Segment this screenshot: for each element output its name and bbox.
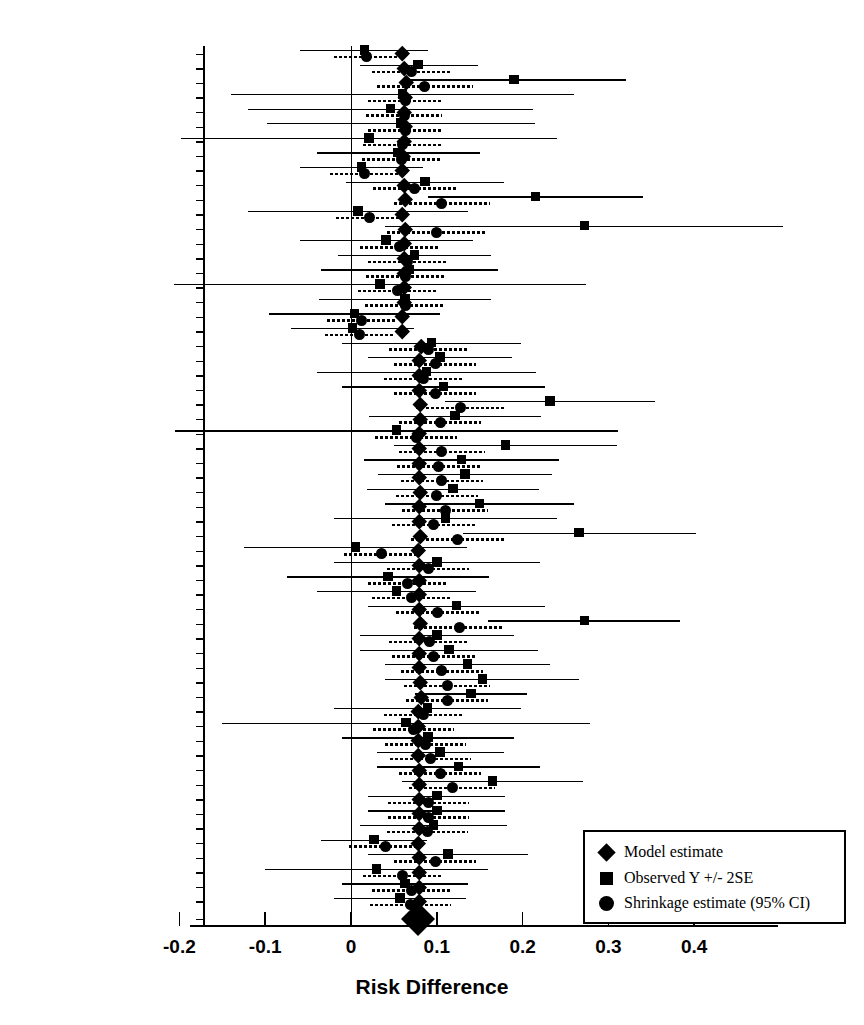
legend-item-shrinkage: Shrinkage estimate (95% CI) [597,895,810,911]
observed-marker [460,469,470,479]
model-estimate-marker [413,616,428,631]
observed-marker [395,893,405,903]
model-estimate-marker [411,777,426,792]
observed-marker [369,835,379,845]
observed-marker [386,104,396,114]
square-icon [597,872,615,885]
legend-item-model-estimate: Model estimate [597,844,723,860]
model-estimate-marker [410,543,425,558]
circle-icon [597,896,615,911]
x-tick-label: 0 [311,936,391,958]
model-estimate-marker [395,309,410,324]
observed-marker [545,396,555,406]
legend-label: Shrinkage estimate (95% CI) [624,895,810,911]
observed-marker [435,747,445,757]
model-estimate-marker [412,353,427,368]
shrinkage-marker [431,490,442,501]
observed-marker [452,601,462,611]
shrinkage-marker [428,519,439,530]
shrinkage-marker [359,168,370,179]
shrinkage-marker [442,680,453,691]
observed-marker [381,235,391,245]
model-estimate-marker [413,675,428,690]
y-axis-line [203,46,205,926]
observed-marker [441,513,451,523]
model-estimate-marker [411,865,426,880]
observed-marker [353,206,363,216]
model-estimate-marker [395,324,410,339]
zero-reference-line [351,46,352,926]
shrinkage-marker [419,81,430,92]
observed-marker [383,572,393,582]
shrinkage-marker [376,548,387,559]
shrinkage-marker [354,329,365,340]
model-estimate-marker [414,689,429,704]
observed-marker [501,440,511,450]
observed-marker [574,528,584,538]
observed-marker [466,689,476,699]
legend: Model estimate Observed Y +/- 2SE Shrink… [583,830,846,924]
model-estimate-marker [412,514,427,529]
observed-marker [509,75,519,85]
model-estimate-marker [412,499,427,514]
x-tick-label: 0.3 [568,936,648,958]
model-estimate-marker [398,192,413,207]
observed-marker [580,221,590,231]
shrinkage-marker [431,227,442,238]
model-estimate-marker [413,412,428,427]
model-estimate-marker [398,222,413,237]
model-estimate-marker [395,207,410,222]
observed-marker [457,455,467,465]
observed-marker [463,659,473,669]
legend-item-observed: Observed Y +/- 2SE [597,870,753,886]
observed-marker [454,762,464,772]
diamond-icon [597,846,615,859]
observed-marker [488,776,498,786]
model-estimate-marker [411,572,426,587]
shrinkage-marker [361,51,372,62]
observed-marker [444,645,454,655]
shrinkage-marker [425,753,436,764]
shrinkage-marker [435,768,446,779]
model-estimate-marker [395,46,410,61]
x-axis-title: Risk Difference [0,975,864,999]
observed-marker [450,411,460,421]
shrinkage-marker [428,651,439,662]
x-tick [264,912,266,926]
observed-marker [420,177,430,187]
model-estimate-marker [413,397,428,412]
x-tick [179,912,181,926]
model-estimate-marker [413,529,428,544]
model-estimate-marker [411,602,426,617]
shrinkage-marker [452,534,463,545]
x-tick [436,912,438,926]
model-estimate-marker [395,163,410,178]
observed-marker [443,849,453,859]
observed-marker [375,279,385,289]
observed-marker [392,425,402,435]
x-axis-line [190,925,778,927]
x-tick [522,912,524,926]
model-estimate-marker [411,762,426,777]
model-estimate-marker [412,455,427,470]
observed-marker [364,133,374,143]
model-estimate-marker [412,441,427,456]
legend-label: Model estimate [624,844,723,860]
observed-marker [475,499,485,509]
shrinkage-marker [454,622,465,633]
x-tick-label: 0.2 [483,936,563,958]
shrinkage-marker [436,665,447,676]
observed-marker [439,382,449,392]
observed-marker [448,484,458,494]
shrinkage-marker [436,475,447,486]
legend-label: Observed Y +/- 2SE [624,870,753,886]
model-estimate-marker [410,836,425,851]
model-estimate-marker [410,748,425,763]
shrinkage-marker [432,607,443,618]
observed-marker [432,806,442,816]
observed-marker [478,674,488,684]
model-estimate-marker [412,660,427,675]
shrinkage-marker [430,388,441,399]
observed-marker [432,557,442,567]
model-estimate-marker [412,645,427,660]
